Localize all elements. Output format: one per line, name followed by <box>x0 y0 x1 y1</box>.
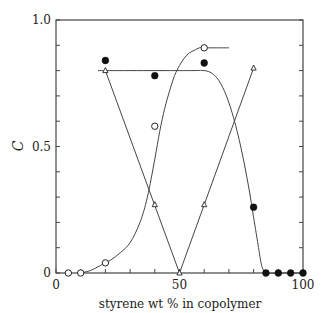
open-circle-marker <box>78 270 84 276</box>
y-axis-ticks <box>56 20 303 273</box>
y-axis-tick-labels: 00.51.0 <box>32 13 51 280</box>
x-axis-label: styrene wt % in copolymer <box>99 297 262 311</box>
open-circle-marker <box>201 45 207 51</box>
x-axis-tick-labels: 050100 <box>52 278 314 292</box>
filled-circle-marker <box>300 270 307 277</box>
x-tick-label: 100 <box>292 278 315 292</box>
curve-filled-circles <box>98 70 303 273</box>
filled-circle-marker <box>287 270 294 277</box>
y-tick-label: 0.5 <box>32 140 51 154</box>
y-axis-label: C <box>10 140 26 151</box>
plot-frame <box>56 20 303 273</box>
open-circle-marker <box>102 260 108 266</box>
open-circle-marker <box>152 123 158 129</box>
filled-circle-marker <box>275 270 282 277</box>
x-tick-label: 0 <box>52 278 60 292</box>
filled-circle-marker <box>151 72 158 79</box>
triangle-marker <box>251 65 256 70</box>
filled-circle-marker <box>201 60 208 67</box>
series-markers <box>65 45 306 277</box>
curve-triangles <box>105 68 253 273</box>
open-circle-marker <box>65 270 71 276</box>
x-tick-label: 50 <box>172 278 187 292</box>
filled-circle-marker <box>263 270 270 277</box>
plot-border <box>56 20 303 273</box>
series-curves <box>81 48 303 274</box>
triangle-marker <box>202 202 207 207</box>
y-tick-label: 1.0 <box>32 13 51 27</box>
triangle-marker <box>152 202 157 207</box>
curve-open-circles <box>81 48 229 273</box>
y-tick-label: 0 <box>43 266 51 280</box>
chart: 050100 00.51.0 styrene wt % in copolymer… <box>0 0 324 313</box>
filled-circle-marker <box>250 204 257 211</box>
filled-circle-marker <box>102 57 109 64</box>
